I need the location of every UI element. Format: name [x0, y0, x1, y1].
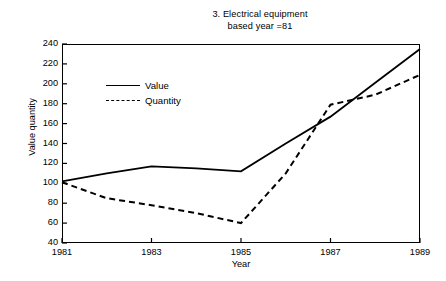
legend-label-value: Value: [145, 78, 169, 93]
legend-line-dashed-icon: [106, 100, 140, 101]
legend-item-quantity: Quantity: [106, 93, 226, 108]
plot-area: [0, 0, 446, 281]
series-line-value: [62, 49, 420, 181]
legend-label-quantity: Quantity: [145, 93, 181, 108]
legend-line-solid-icon: [106, 85, 140, 86]
chart-legend: Value Quantity: [106, 78, 226, 108]
axis-tickmarks: [62, 44, 420, 243]
data-series-layer: [62, 49, 420, 223]
chart-figure: 3. Electrical equipment based year =81 V…: [0, 0, 446, 281]
legend-item-value: Value: [106, 78, 226, 93]
